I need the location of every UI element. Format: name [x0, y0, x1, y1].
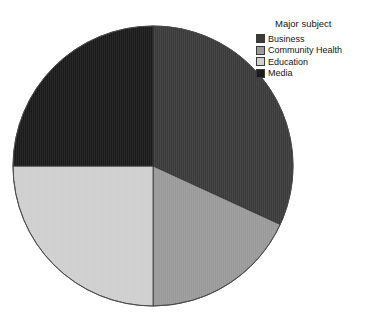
legend-swatch-icon [256, 46, 265, 55]
pie-slice-group [13, 26, 293, 306]
legend-item-label: Education [268, 57, 308, 67]
legend-item[interactable]: Media [256, 68, 368, 79]
pie-slice-texture [13, 26, 153, 166]
legend-item-label: Business [268, 34, 305, 44]
legend-swatch-icon [256, 57, 265, 66]
legend-item-list: BusinessCommunity HealthEducationMedia [256, 33, 368, 79]
legend-swatch-icon [256, 34, 265, 43]
legend-title: Major subject [275, 18, 368, 29]
legend-item[interactable]: Business [256, 33, 368, 44]
legend-swatch-icon [256, 69, 265, 78]
legend-item-label: Media [268, 68, 293, 78]
legend: Major subject BusinessCommunity HealthEd… [256, 18, 368, 79]
legend-item-label: Community Health [268, 45, 342, 55]
legend-item[interactable]: Education [256, 56, 368, 67]
pie-slice-texture [13, 166, 153, 306]
legend-item[interactable]: Community Health [256, 45, 368, 56]
